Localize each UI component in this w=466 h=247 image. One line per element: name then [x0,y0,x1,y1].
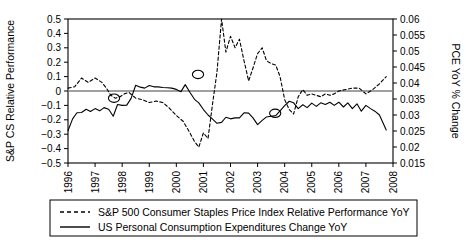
x-axis-tick-label: 1999 [144,171,155,194]
y2-axis-tick-label: 0.05 [400,46,420,57]
x-axis-tick-label: 2001 [198,171,209,194]
legend-label-1: S&P 500 Consumer Staples Price Index Rel… [98,206,409,218]
x-axis-tick-label: 2003 [252,171,263,194]
y-axis-tick-label: 0.3 [47,42,61,53]
x-axis-tick-label: 2008 [388,171,399,194]
y-axis-tick-label: 0.2 [47,57,61,68]
y2-axis-title: PCE YoY % Change [450,44,462,139]
x-axis-tick-label: 2005 [306,171,317,194]
x-axis-tick-label: 2004 [279,171,290,194]
chart-figure: 0.50.40.30.20.10−0.1−0.2−0.3−0.4−0.50.06… [0,0,466,247]
x-axis-tick-label: 2006 [333,171,344,194]
y-axis-tick-label: −0.1 [41,100,61,111]
y2-axis-tick-label: 0.025 [400,126,425,137]
y-axis-tick-label: 0 [55,86,61,97]
x-axis-tick-label: 1998 [117,171,128,194]
y-axis-tick-label: −0.5 [41,158,61,169]
y-axis-tick-label: 0.1 [47,71,61,82]
y2-axis-tick-label: 0.055 [400,30,425,41]
line-chart: 0.50.40.30.20.10−0.1−0.2−0.3−0.4−0.50.06… [0,0,466,247]
y-axis-tick-label: −0.3 [41,129,61,140]
legend-label-2: US Personal Consumption Expenditures Cha… [98,221,347,233]
x-axis-tick-label: 2002 [225,171,236,194]
y-axis-tick-label: 0.4 [47,28,61,39]
y2-axis-tick-label: 0.04 [400,78,420,89]
x-axis-tick-label: 2000 [171,171,182,194]
y-axis-tick-label: −0.4 [41,143,61,154]
x-axis-tick-label: 2007 [360,171,371,194]
x-axis-tick-label: 1997 [90,171,101,194]
y-axis-tick-label: 0.5 [47,14,61,25]
y2-axis-tick-label: 0.06 [400,14,420,25]
y2-axis-tick-label: 0.015 [400,158,425,169]
y-axis-title: S&P CS Relative Performance [4,20,16,162]
y2-axis-tick-label: 0.045 [400,62,425,73]
y2-axis-tick-label: 0.035 [400,94,425,105]
y2-axis-tick-label: 0.02 [400,142,420,153]
y2-axis-tick-label: 0.03 [400,110,420,121]
x-axis-tick-label: 1996 [63,171,74,194]
y-axis-tick-label: −0.2 [41,114,61,125]
